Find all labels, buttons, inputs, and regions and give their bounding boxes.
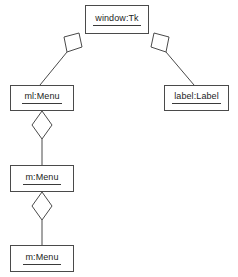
uml-object-m-menu-bottom-label: m:Menu bbox=[23, 253, 60, 265]
uml-object-m-menu-middle[interactable]: m:Menu bbox=[10, 165, 74, 192]
uml-object-ml-menu[interactable]: ml:Menu bbox=[10, 85, 74, 111]
connector-window-to-ml-menu bbox=[40, 52, 67, 85]
aggregation-diamond-ml-m bbox=[32, 111, 52, 139]
connector-layer bbox=[0, 0, 238, 277]
uml-object-ml-menu-label: ml:Menu bbox=[22, 92, 61, 104]
connector-window-to-label-label bbox=[166, 52, 194, 85]
uml-object-window-tk[interactable]: window:Tk bbox=[85, 5, 149, 34]
aggregation-diamond-m-m bbox=[32, 192, 52, 220]
aggregation-diamond-window-ml bbox=[64, 33, 82, 52]
uml-object-m-menu-middle-label: m:Menu bbox=[23, 173, 60, 185]
uml-object-label-label-label: label:Label bbox=[172, 92, 221, 104]
aggregation-diamond-window-label bbox=[151, 33, 169, 52]
uml-object-window-tk-label: window:Tk bbox=[93, 14, 140, 26]
uml-object-diagram: window:Tk ml:Menu label:Label m:Menu m:M… bbox=[0, 0, 238, 277]
uml-object-m-menu-bottom[interactable]: m:Menu bbox=[10, 245, 74, 272]
uml-object-label-label[interactable]: label:Label bbox=[164, 85, 229, 111]
